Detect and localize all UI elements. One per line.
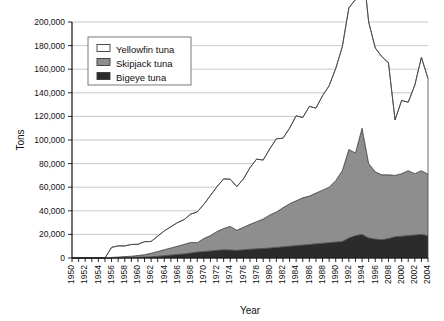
x-axis-tick-label: 1966 — [172, 265, 182, 284]
x-axis-tick-label: 1982 — [277, 265, 287, 284]
x-axis-tick-label: 1956 — [106, 265, 116, 284]
x-axis-tick-label: 1962 — [145, 265, 155, 284]
x-axis-tick-label: 1980 — [264, 265, 274, 284]
x-axis-tick-label: 1984 — [290, 265, 300, 284]
x-axis-tick-label: 2098 — [383, 265, 393, 284]
x-axis-tick-label: 1964 — [159, 265, 169, 284]
x-axis-tick-label: 1952 — [79, 265, 89, 284]
y-axis-tick-label: 160,000 — [34, 64, 65, 74]
legend-swatch-bigeye-tuna — [97, 73, 110, 80]
y-axis-tick-label: 180,000 — [34, 41, 65, 51]
y-axis-title: Tons — [15, 129, 26, 150]
x-axis-tick-label: 1986 — [304, 265, 314, 284]
legend-label-yellowfin-tuna: Yellowfin tuna — [116, 44, 175, 55]
x-axis-tick-label: 1972 — [211, 265, 221, 284]
y-axis-tick-label: 200,000 — [34, 17, 65, 27]
x-axis-tick-label: 2002 — [409, 265, 419, 284]
x-axis-tick-label: 2004 — [422, 265, 432, 284]
y-axis-tick-label: 40,000 — [39, 206, 65, 216]
x-axis-tick-label: 1974 — [224, 265, 234, 284]
y-axis-tick-label: 20,000 — [39, 229, 65, 239]
x-axis-tick-label: 1992 — [343, 265, 353, 284]
x-axis-tick-label: 2000 — [396, 265, 406, 284]
y-axis-tick-label: 100,000 — [34, 135, 65, 145]
legend-label-bigeye-tuna: Bigeye tuna — [116, 72, 167, 83]
legend-swatch-yellowfin-tuna — [97, 45, 110, 52]
x-axis-tick-label: 1996 — [370, 265, 380, 284]
x-axis-tick-label: 1994 — [356, 265, 366, 284]
y-axis-tick-label: 80,000 — [39, 159, 65, 169]
y-axis-tick-label: 60,000 — [39, 182, 65, 192]
x-axis-tick-label: 1990 — [330, 265, 340, 284]
x-axis-tick-label: 1958 — [119, 265, 129, 284]
x-axis-tick-label: 1988 — [317, 265, 327, 284]
x-axis-tick-label: 1950 — [66, 265, 76, 284]
x-axis-tick-label: 1976 — [238, 265, 248, 284]
y-axis-tick-label: 0 — [60, 253, 65, 263]
legend-label-skipjack-tuna: Skipjack tuna — [116, 58, 173, 69]
x-axis-tick-label: 1960 — [132, 265, 142, 284]
y-axis-tick-label: 120,000 — [34, 111, 65, 121]
chart-canvas: 020,00040,00060,00080,000100,000120,0001… — [0, 0, 444, 321]
y-axis-tick-label: 140,000 — [34, 88, 65, 98]
legend-swatch-skipjack-tuna — [97, 59, 110, 66]
tuna-catch-stacked-area-chart: 020,00040,00060,00080,000100,000120,0001… — [0, 0, 444, 321]
x-axis-tick-label: 1954 — [93, 265, 103, 284]
x-axis-tick-label: 1970 — [198, 265, 208, 284]
x-axis-title: Year — [240, 305, 261, 316]
x-axis-tick-label: 1978 — [251, 265, 261, 284]
x-axis-tick-label: 1968 — [185, 265, 195, 284]
